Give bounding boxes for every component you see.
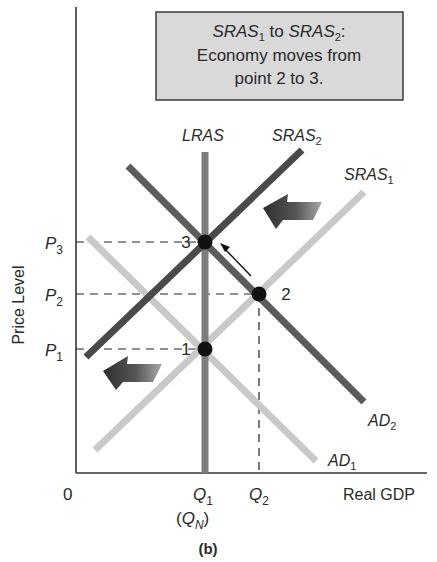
equilibrium-point-1 <box>198 342 213 357</box>
x-tick-q2: Q2 <box>249 485 269 508</box>
sras1-curve <box>95 192 364 450</box>
sras2-label: SRAS2 <box>272 127 322 147</box>
shift-arrow-lower-icon <box>103 356 162 390</box>
annotation-line-1: SRAS1 to SRAS2: <box>212 22 345 43</box>
point-1-label: 1 <box>181 340 190 359</box>
origin-label: 0 <box>63 485 72 504</box>
shift-arrow-upper-icon <box>263 194 322 229</box>
annotation-line-3: point 2 to 3. <box>235 69 324 88</box>
sras2-curve <box>86 150 302 357</box>
equilibrium-point-3 <box>198 235 213 250</box>
x-tick-qn-note: (QN) <box>176 509 209 532</box>
y-axis-title: Price Level <box>10 265 27 344</box>
sras1-label: SRAS1 <box>344 166 394 186</box>
equilibrium-point-2 <box>252 287 267 302</box>
ad1-label: AD1 <box>327 452 356 472</box>
y-tick-p2: P2 <box>45 286 63 309</box>
x-axis-title: Real GDP <box>343 486 415 503</box>
y-tick-p1: P1 <box>45 341 63 364</box>
point-3-label: 3 <box>181 233 190 252</box>
y-tick-p3: P3 <box>45 234 63 257</box>
x-tick-q1: Q1 <box>193 485 213 508</box>
ad2-label: AD2 <box>367 412 396 432</box>
annotation-box: SRAS1 to SRAS2: Economy moves from point… <box>156 12 403 100</box>
figure-caption: (b) <box>198 540 217 557</box>
point-2-label: 2 <box>281 285 290 304</box>
economics-diagram: SRAS1 to SRAS2: Economy moves from point… <box>0 0 437 562</box>
annotation-line-2: Economy moves from <box>197 46 361 65</box>
lras-label: LRAS <box>182 127 224 144</box>
